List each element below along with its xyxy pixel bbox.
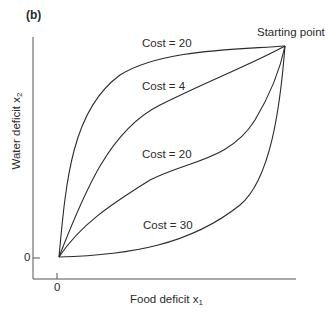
curve-label-cost-30: Cost = 30 [143,219,193,231]
x-axis-label: Food deficit x1 [130,293,203,307]
y-tick-label-0: 0 [24,251,30,263]
panel-label: (b) [26,8,41,22]
x-tick-label-0: 0 [54,281,60,293]
y-axis-label: Water deficit x2 [10,81,24,181]
y-axis-label-subscript: 2 [15,93,24,97]
curve-label-cost-20-middle: Cost = 20 [142,148,192,160]
y-axis-label-text: Water deficit x [10,97,22,169]
x-axis-label-subscript: 1 [198,298,202,307]
curve-label-cost-20-top: Cost = 20 [142,37,192,49]
starting-point-label: Starting point [257,26,325,38]
curve-label-cost-4: Cost = 4 [142,80,185,92]
x-axis-label-text: Food deficit x [130,293,198,305]
